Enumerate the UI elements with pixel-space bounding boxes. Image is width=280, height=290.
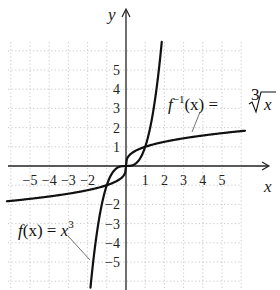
svg-text:f−1(x) =: f−1(x) = [168, 93, 218, 114]
y-tick-label: 2 [113, 121, 120, 136]
y-tick-label: 3 [113, 101, 120, 116]
x-tick-label: 5 [219, 173, 226, 188]
y-tick-label: 5 [113, 63, 120, 78]
x-tick-label: 1 [142, 173, 149, 188]
x-tick-label: 2 [161, 173, 168, 188]
x-tick-label: −3 [61, 173, 76, 188]
function-annotation: f(x) = x3 [18, 218, 90, 260]
x-tick-label: −4 [42, 173, 57, 188]
x-tick-label: 3 [180, 173, 187, 188]
x-tick-label: 4 [199, 173, 206, 188]
x-tick-label: −2 [80, 173, 95, 188]
function-leader-line [68, 236, 90, 260]
svg-text:f(x) = x3: f(x) = x3 [18, 218, 74, 240]
y-tick-label: 4 [113, 82, 120, 97]
y-tick-label: 1 [113, 140, 120, 155]
y-axis-label: y [106, 5, 116, 24]
svg-text:x: x [263, 95, 272, 114]
x-axis-label: x [263, 177, 272, 196]
function-graph: −5−4−3−21234554321−2−3−4−5 y x f−1(x) = … [0, 0, 280, 290]
y-tick-label: −4 [105, 236, 120, 251]
y-tick-label: −5 [105, 255, 120, 270]
y-tick-label: −3 [105, 217, 120, 232]
x-tick-label: −5 [23, 173, 38, 188]
y-tick-label: −2 [105, 197, 120, 212]
inverse-leader-line [192, 112, 200, 132]
